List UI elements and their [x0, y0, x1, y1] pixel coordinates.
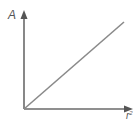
data-line [24, 22, 124, 109]
y-axis-label: A [8, 8, 16, 22]
y-axis-arrow-icon [21, 10, 28, 19]
chart-canvas [0, 0, 140, 124]
x-axis-label: r2 [126, 110, 133, 121]
x-axis-label-exponent: 2 [129, 110, 132, 116]
